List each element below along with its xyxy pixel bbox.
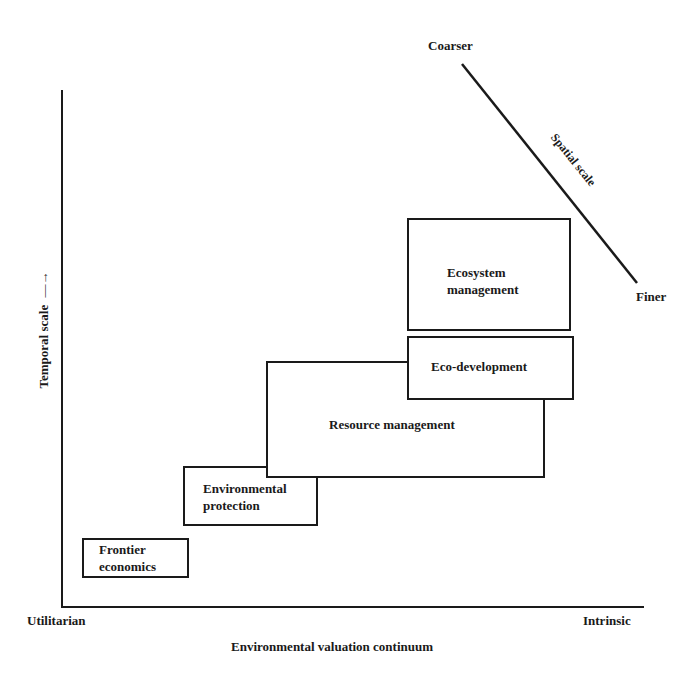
ecosystem-management-label: Ecosystem management [447, 264, 519, 298]
spatial-scale-top-label: Coarser [428, 38, 473, 54]
spatial-scale-line [0, 0, 700, 683]
environmental-protection-label: Environmental protection [203, 480, 287, 514]
resource-management-label: Resource management [329, 416, 455, 433]
eco-development-label: Eco-development [431, 358, 527, 375]
frontier-economics-label: Frontier economics [99, 541, 156, 575]
spatial-scale-bottom-label: Finer [636, 289, 666, 305]
